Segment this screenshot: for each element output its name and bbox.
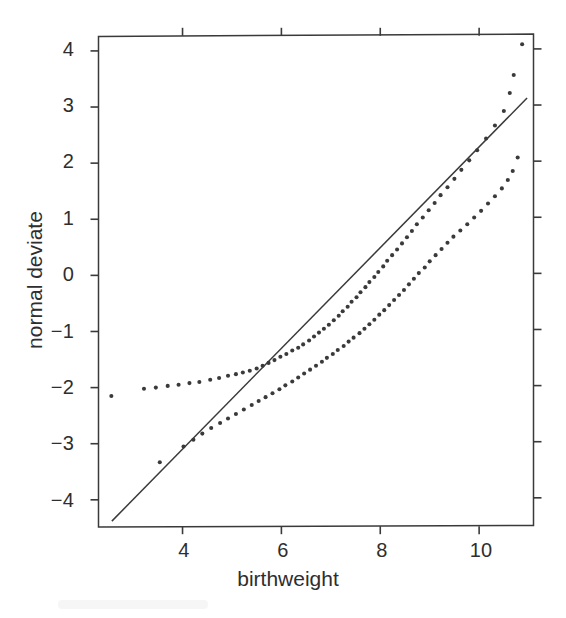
data-point: [465, 222, 469, 226]
data-point: [459, 168, 463, 172]
data-point: [354, 295, 358, 299]
data-point: [270, 391, 274, 395]
scan-artifact: [58, 600, 208, 609]
data-point: [385, 259, 389, 263]
data-point: [312, 334, 316, 338]
data-point: [342, 344, 346, 348]
data-point: [325, 356, 329, 360]
data-point: [382, 308, 386, 312]
data-point: [423, 265, 427, 269]
x-axis-title: birthweight: [237, 568, 339, 589]
data-point: [290, 349, 294, 353]
reference-line-layer: [112, 98, 527, 521]
data-point: [255, 366, 259, 370]
data-point: [395, 248, 399, 252]
data-point: [187, 381, 191, 385]
data-point: [241, 370, 245, 374]
data-point: [512, 73, 516, 77]
ytick-label: −3: [24, 433, 74, 453]
xtick-label: 8: [376, 540, 387, 560]
data-point: [158, 460, 162, 464]
data-point: [177, 383, 181, 387]
data-point: [402, 288, 406, 292]
data-point: [352, 336, 356, 340]
data-point: [445, 185, 449, 189]
data-point: [217, 376, 221, 380]
data-point: [331, 352, 335, 356]
data-point: [493, 194, 497, 198]
data-point: [347, 340, 351, 344]
data-point: [520, 42, 524, 46]
data-series-group-b: [158, 155, 520, 464]
data-point: [493, 123, 497, 127]
data-point: [283, 383, 287, 387]
data-point: [407, 282, 411, 286]
data-point: [322, 327, 326, 331]
data-point: [376, 270, 380, 274]
data-point: [250, 403, 254, 407]
ytick-label: −4: [24, 490, 74, 510]
data-point: [208, 378, 212, 382]
data-point: [314, 364, 318, 368]
data-point: [428, 259, 432, 263]
data-point: [410, 229, 414, 233]
data-point: [234, 412, 238, 416]
data-point: [367, 322, 371, 326]
data-point: [142, 387, 146, 391]
data-point: [336, 348, 340, 352]
data-point: [337, 314, 341, 318]
xtick-label: 6: [277, 540, 288, 560]
data-point: [417, 271, 421, 275]
data-point: [372, 318, 376, 322]
data-point: [350, 300, 354, 304]
data-series-group-a: [109, 42, 524, 398]
data-point: [415, 222, 419, 226]
data-point: [248, 369, 252, 373]
data-point: [307, 338, 311, 342]
data-point: [278, 355, 282, 359]
data-point: [516, 155, 520, 159]
data-point: [218, 421, 222, 425]
data-point: [301, 342, 305, 346]
data-point: [502, 109, 506, 113]
data-point: [357, 331, 361, 335]
data-point: [200, 432, 204, 436]
ytick-label: 2: [34, 151, 74, 171]
ytick-label: 4: [34, 39, 74, 59]
data-points-layer: [109, 42, 524, 464]
data-point: [511, 169, 515, 173]
xtick-label: 4: [178, 540, 189, 560]
data-point: [302, 372, 306, 376]
data-point: [317, 331, 321, 335]
data-point: [397, 293, 401, 297]
data-point: [412, 277, 416, 281]
data-point: [226, 374, 230, 378]
data-point: [308, 368, 312, 372]
normal-probability-plot-figure: 4 3 2 1 0 −1 −2 −3 −4 4 6 8 10 birthweig…: [0, 0, 566, 618]
data-point: [277, 387, 281, 391]
data-point: [439, 193, 443, 197]
data-point: [197, 380, 201, 384]
data-point: [363, 285, 367, 289]
data-point: [400, 241, 404, 245]
plot-canvas: [0, 0, 566, 618]
data-point: [445, 241, 449, 245]
data-point: [458, 228, 462, 232]
data-point: [392, 298, 396, 302]
data-point: [377, 313, 381, 317]
data-point: [452, 177, 456, 181]
data-point: [346, 305, 350, 309]
data-point: [440, 247, 444, 251]
data-point: [109, 394, 113, 398]
data-point: [154, 386, 158, 390]
data-point: [264, 395, 268, 399]
ytick-label: 3: [34, 95, 74, 115]
data-point: [327, 323, 331, 327]
data-point: [508, 91, 512, 95]
data-point: [427, 208, 431, 212]
data-point: [272, 358, 276, 362]
ytick-label: −2: [24, 377, 74, 397]
data-point: [500, 186, 504, 190]
data-point: [284, 352, 288, 356]
tick-marks: [91, 28, 542, 534]
